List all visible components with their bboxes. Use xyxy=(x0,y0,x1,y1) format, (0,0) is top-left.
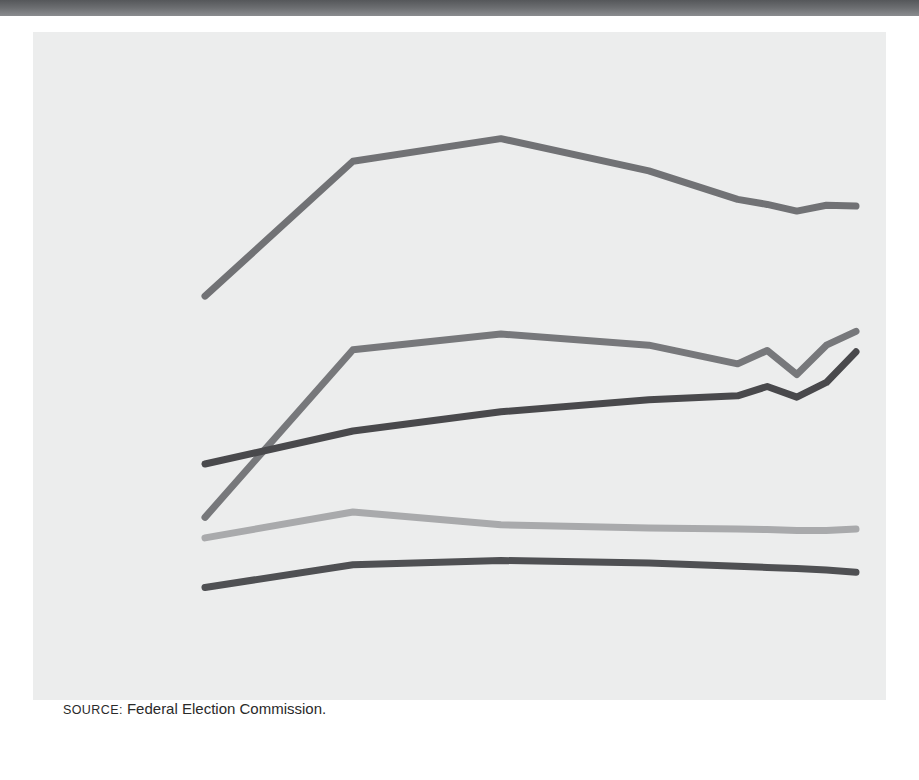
series-layer xyxy=(205,139,856,588)
line-chart xyxy=(0,0,919,780)
source-note: SOURCE: Federal Election Commission. xyxy=(63,700,326,717)
series-line-corporate xyxy=(205,139,856,297)
source-prefix: SOURCE: xyxy=(63,703,123,717)
figure-root: SOURCE: Federal Election Commission. xyxy=(0,0,919,780)
series-line-other xyxy=(205,561,856,588)
series-line-labor xyxy=(205,512,856,538)
source-text: Federal Election Commission. xyxy=(127,700,326,717)
series-line-publicinterest xyxy=(205,331,856,517)
